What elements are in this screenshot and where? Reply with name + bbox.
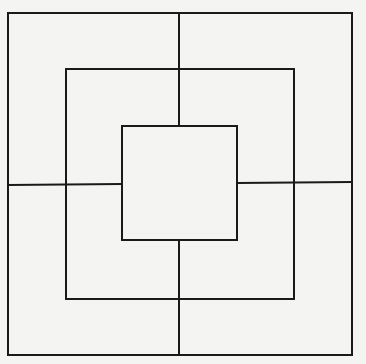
inner-square bbox=[122, 126, 237, 240]
left-horizontal-line bbox=[8, 184, 122, 185]
right-horizontal-line bbox=[237, 182, 352, 183]
nested-squares-diagram bbox=[0, 0, 366, 364]
